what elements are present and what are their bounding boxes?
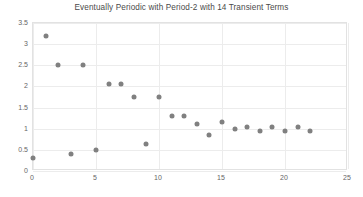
x-axis-tick-label: 0 (17, 174, 47, 181)
scatter-point (245, 124, 250, 129)
scatter-point (270, 124, 275, 129)
horizontal-gridline (33, 44, 346, 45)
y-axis-tick-label: 0 (2, 167, 28, 174)
scatter-point (194, 122, 199, 127)
scatter-point (283, 128, 288, 133)
y-axis-tick-label: 3 (2, 40, 28, 47)
vertical-gridline (33, 23, 34, 169)
horizontal-gridline (33, 171, 346, 172)
scatter-point (257, 128, 262, 133)
scatter-point (232, 126, 237, 131)
scatter-point (68, 152, 73, 157)
scatter-point (295, 124, 300, 129)
chart-title: Eventually Periodic with Period-2 with 1… (0, 3, 363, 12)
horizontal-gridline (33, 150, 346, 151)
scatter-point (119, 82, 124, 87)
plot-area (32, 22, 347, 170)
y-axis-tick-label: 1.5 (2, 103, 28, 110)
horizontal-gridline (33, 86, 346, 87)
scatter-point (144, 141, 149, 146)
horizontal-gridline (33, 23, 346, 24)
horizontal-gridline (33, 108, 346, 109)
scatter-point (308, 128, 313, 133)
y-axis-tick-label: 2 (2, 82, 28, 89)
scatter-point (94, 147, 99, 152)
y-axis-tick-label: 0.5 (2, 145, 28, 152)
scatter-point (106, 82, 111, 87)
scatter-point (81, 63, 86, 68)
x-axis-tick-label: 10 (143, 174, 173, 181)
scatter-point (56, 63, 61, 68)
vertical-gridline (222, 23, 223, 169)
scatter-point (182, 114, 187, 119)
scatter-point (207, 133, 212, 138)
chart-container: Eventually Periodic with Period-2 with 1… (0, 0, 363, 197)
y-axis-tick-label: 2.5 (2, 61, 28, 68)
scatter-point (220, 120, 225, 125)
y-axis-tick-label: 3.5 (2, 19, 28, 26)
y-axis-tick-label: 1 (2, 124, 28, 131)
scatter-point (131, 95, 136, 100)
x-axis-tick-label: 15 (206, 174, 236, 181)
x-axis-tick-label: 20 (269, 174, 299, 181)
scatter-point (43, 33, 48, 38)
horizontal-gridline (33, 129, 346, 130)
vertical-gridline (348, 23, 349, 169)
scatter-point (31, 156, 36, 161)
vertical-gridline (285, 23, 286, 169)
x-axis-tick-label: 25 (332, 174, 362, 181)
scatter-point (157, 95, 162, 100)
x-axis-tick-label: 5 (80, 174, 110, 181)
scatter-point (169, 114, 174, 119)
